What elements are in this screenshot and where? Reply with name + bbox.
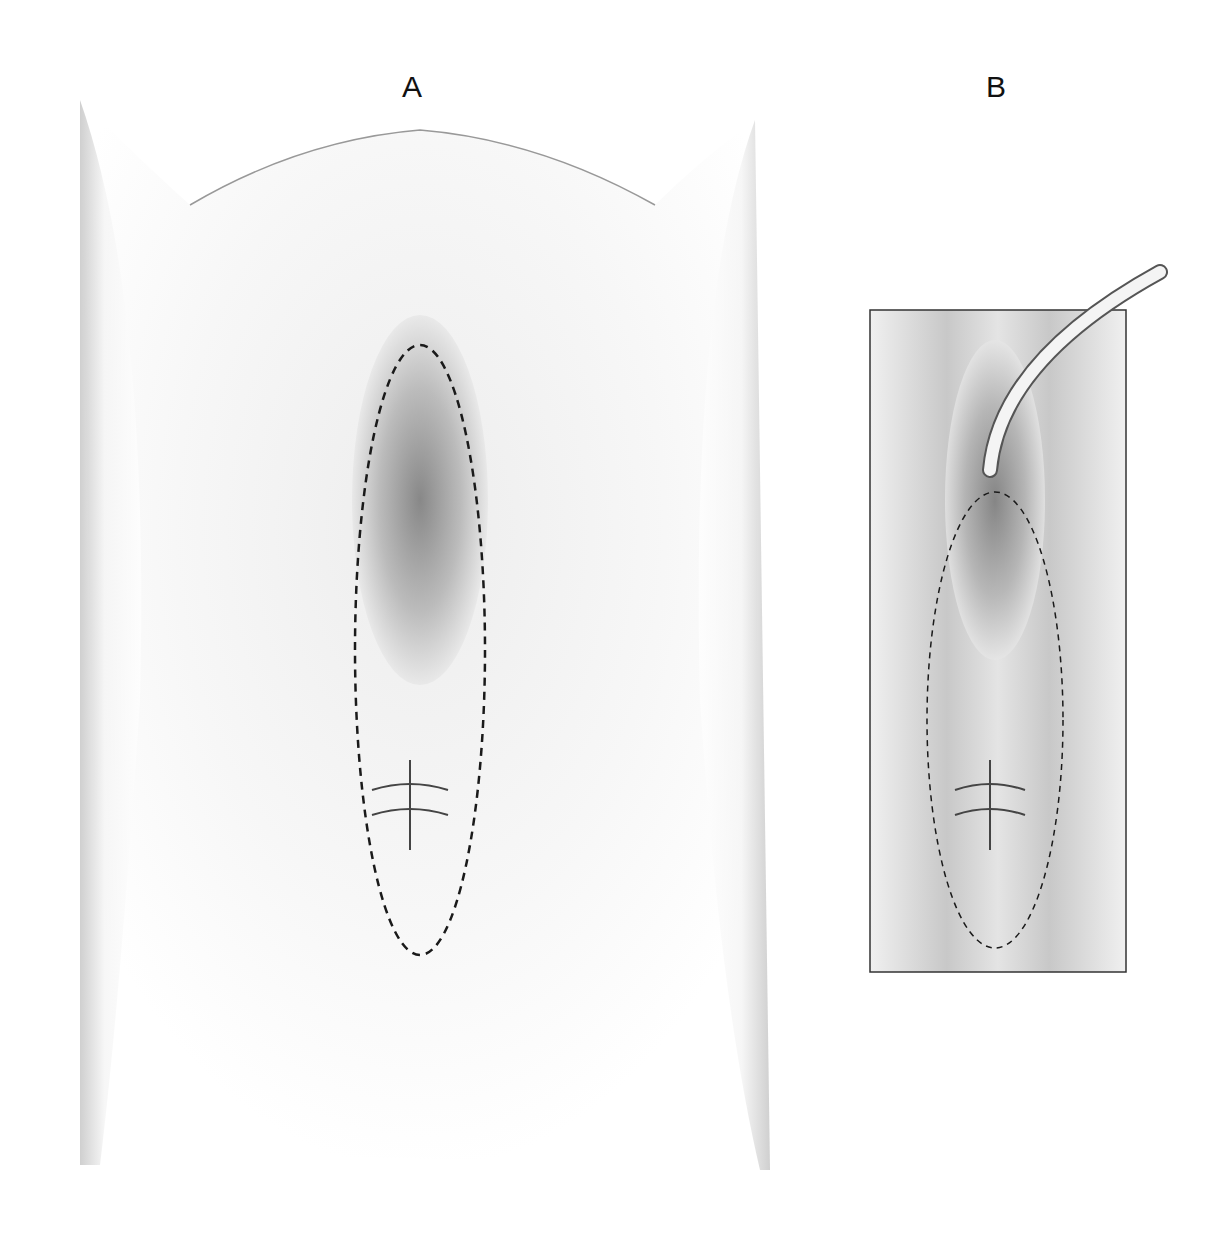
panel-b xyxy=(870,272,1160,972)
panel-a xyxy=(80,100,770,1170)
site-region-a xyxy=(352,315,488,685)
anatomical-diagram xyxy=(0,0,1218,1243)
